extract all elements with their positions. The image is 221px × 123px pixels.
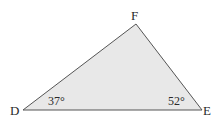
vertex-label-f: F xyxy=(131,8,138,23)
angle-label-d: 37° xyxy=(48,94,65,108)
vertex-label-e: E xyxy=(203,103,211,118)
triangle-diagram: F D E 37° 52° xyxy=(0,0,221,123)
vertex-label-d: D xyxy=(10,103,19,118)
angle-label-e: 52° xyxy=(168,94,185,108)
